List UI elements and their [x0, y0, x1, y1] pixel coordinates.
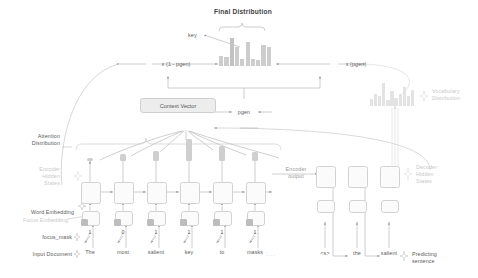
- encoder-output-label-line1: Encoder: [276, 166, 316, 172]
- attention-distribution-label-line2: Distribution: [18, 140, 60, 146]
- decoder-hidden-states-label-line3: States: [416, 178, 432, 184]
- bar: [224, 57, 228, 66]
- attention-bar: [153, 151, 159, 161]
- input-token: most: [107, 249, 139, 255]
- final-distribution-title: Final Distribution: [198, 8, 288, 15]
- key-callout-label: key: [188, 32, 197, 38]
- focus-mask-value: 1: [146, 229, 166, 235]
- decoder-token: the: [341, 250, 373, 256]
- multiply-pgen-label: x (pgen): [334, 61, 378, 67]
- vocabulary-distribution-chart: [370, 82, 414, 106]
- focus-embedding-cell: [213, 219, 220, 226]
- attention-distribution-label-line1: Attention: [18, 133, 60, 139]
- encoder-hidden-states-label-line2: Hidden: [18, 173, 60, 179]
- pgen-label: pgen: [228, 109, 260, 115]
- decoder-hidden-cell: [380, 166, 400, 188]
- bar: [240, 59, 244, 67]
- bar: [256, 60, 260, 66]
- input-ellipsis: · · ·: [266, 252, 275, 258]
- encoder-hidden-cell: [180, 182, 200, 204]
- bar: [251, 59, 255, 66]
- attention-bar: [87, 158, 93, 161]
- decoder-embedding-cell: [349, 200, 367, 213]
- bar: [235, 47, 239, 66]
- bar: [394, 98, 397, 106]
- vocabulary-distribution-label-line1: Vocabulary: [432, 88, 460, 94]
- bar: [407, 96, 410, 106]
- encoder-hidden-states-label-line3: States: [18, 180, 60, 186]
- focus-mask-value: 1: [212, 229, 232, 235]
- final-distribution-chart: [219, 36, 271, 66]
- attention-bar: [120, 154, 126, 161]
- word-embedding-label: Word Embedding: [6, 209, 74, 215]
- bar: [246, 42, 250, 66]
- attention-bar: [252, 152, 258, 161]
- bar: [370, 99, 373, 106]
- predicting-sentence-label-line2: sentence: [412, 258, 435, 264]
- focus-embedding-cell: [180, 219, 187, 226]
- bar: [378, 96, 381, 106]
- bar: [374, 94, 377, 106]
- focus-mask-label: focus_mask: [14, 234, 72, 240]
- focus-embedding-label: Focus Embedding: [2, 217, 68, 223]
- predicting-sentence-label-line1: Predicting: [412, 251, 437, 257]
- bar: [219, 56, 223, 67]
- bar: [411, 90, 414, 106]
- focus-embedding-cell: [114, 219, 121, 226]
- focus-mask-value: 1: [245, 229, 265, 235]
- bar: [267, 47, 271, 66]
- input-token: to: [206, 249, 238, 255]
- focus-mask-value: 1: [179, 229, 199, 235]
- decoder-hidden-cell: [348, 166, 368, 188]
- encoder-hidden-cell: [213, 182, 233, 204]
- focus-embedding-cell: [246, 219, 253, 226]
- encoder-hidden-cell: [147, 182, 167, 204]
- decoder-embedding-cell: [317, 200, 335, 213]
- bar: [390, 91, 393, 106]
- decoder-hidden-cell: [316, 166, 336, 188]
- decoder-hidden-states-label-line2: Hidden: [416, 171, 434, 177]
- focus-embedding-cell: [81, 219, 88, 226]
- multiply-one-minus-pgen-label: x (1 - pgen): [148, 61, 204, 67]
- decoder-token: <s>: [309, 250, 341, 256]
- diagram-canvas: Final Distribution key x (1 - pgen) x (p…: [0, 0, 478, 278]
- input-token: key: [173, 249, 205, 255]
- decoder-hidden-states-label-line1: Decoder: [416, 164, 437, 170]
- encoder-hidden-cell: [81, 182, 101, 204]
- context-vector-box[interactable]: Context Vector: [140, 98, 216, 113]
- encoder-hidden-cell: [246, 182, 266, 204]
- input-token: The: [74, 249, 106, 255]
- decoder-token: salient: [373, 250, 405, 256]
- focus-mask-value: 0: [113, 229, 133, 235]
- focus-mask-value: 1: [80, 229, 100, 235]
- vocabulary-distribution-label-line2: Distribution: [432, 95, 460, 101]
- encoder-output-label-line2: output: [276, 173, 316, 179]
- focus-embedding-cell: [147, 219, 154, 226]
- decoder-embedding-cell: [381, 200, 399, 213]
- bar: [382, 83, 385, 106]
- bar: [386, 100, 389, 106]
- bar: [261, 45, 265, 66]
- input-token: salient: [140, 249, 172, 255]
- input-document-label: Input Document: [8, 251, 72, 257]
- bar: [399, 94, 402, 106]
- bar: [403, 87, 406, 106]
- bar: [230, 38, 234, 67]
- encoder-hidden-cell: [114, 182, 134, 204]
- encoder-hidden-states-label-line1: Encoder: [18, 166, 60, 172]
- attention-bar: [219, 146, 225, 161]
- attention-bar: [186, 139, 192, 161]
